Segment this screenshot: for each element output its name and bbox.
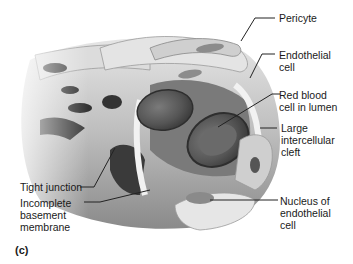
panel-label: (c) xyxy=(15,244,28,256)
label-intercellular-cleft: Large intercellular cleft xyxy=(281,122,335,158)
label-tight-junction: Tight junction xyxy=(20,181,82,193)
sinusoidal-capillary-diagram: Pericyte Endothelial cell Red blood cell… xyxy=(0,0,353,264)
label-red-blood-cell: Red blood cell in lumen xyxy=(279,89,337,113)
label-endothelial-cell: Endothelial cell xyxy=(279,49,331,73)
label-nucleus: Nucleus of endothelial cell xyxy=(280,195,331,231)
label-pericyte: Pericyte xyxy=(279,12,317,24)
label-basement-membrane: Incomplete basement membrane xyxy=(20,197,71,233)
